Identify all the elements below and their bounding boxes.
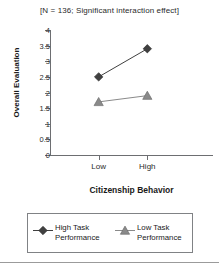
legend-entry: High TaskPerformance	[28, 223, 110, 243]
data-point-diamond	[39, 226, 47, 234]
data-point-triangle	[120, 226, 129, 234]
legend-entry: Low TaskPerformance	[110, 223, 192, 243]
bottom-divider	[0, 262, 219, 263]
legend-label: High TaskPerformance	[53, 223, 100, 243]
plot-area: Overall Evaluation 00.511.522.533.54 Low…	[0, 22, 219, 172]
x-axis-title: Citizenship Behavior	[50, 185, 213, 195]
series-plot	[0, 22, 219, 172]
data-point-triangle	[143, 91, 152, 99]
series-line	[99, 96, 148, 102]
data-point-diamond	[143, 45, 151, 53]
chart-title: [N = 136; Significant interaction effect…	[0, 6, 219, 15]
data-point-diamond	[94, 73, 102, 81]
legend-label: Low TaskPerformance	[135, 223, 182, 243]
chart-legend: High TaskPerformanceLow TaskPerformance	[27, 213, 193, 253]
legend-triangle-icon	[115, 224, 135, 236]
series-line	[99, 49, 148, 77]
legend-diamond-icon	[33, 224, 53, 236]
chart-figure: [N = 136; Significant interaction effect…	[0, 0, 219, 270]
